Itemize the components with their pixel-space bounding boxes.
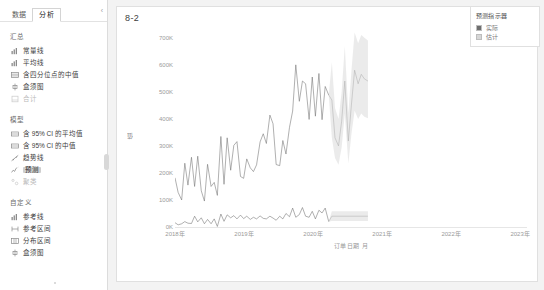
forecast-confidence-band	[329, 32, 368, 164]
x-axis-ticks: 2018年2019年2020年2021年2022年2023年	[175, 229, 527, 241]
sidebar-item-label: 常量线	[23, 48, 44, 55]
x-tick-label: 2019年	[234, 229, 253, 238]
group-title-summarize: 汇总	[0, 31, 107, 45]
sidebar-item-label: 分布区间	[23, 238, 51, 245]
sidebar-item-label: 含 95% CI 的平均值	[23, 131, 83, 138]
sidebar-item-median-with-95ci[interactable]: 含 95% CI 的中值	[0, 140, 107, 152]
sidebar-item-trend-line[interactable]: 趋势线	[0, 152, 107, 164]
sidebar-item-average-with-95ci[interactable]: 含 95% CI 的平均值	[0, 128, 107, 140]
sidebar-item-label: 参考区间	[23, 226, 51, 233]
group-title-model: 模型	[0, 114, 107, 128]
legend-title: 预测指示器	[476, 11, 534, 20]
boxplot-icon	[11, 249, 19, 257]
y-axis-ticks: 0K100K200K300K400K500K600K700K	[133, 27, 173, 227]
legend-label: 估计	[486, 34, 498, 40]
x-tick-label: 2020年	[303, 229, 322, 238]
trendline-icon	[11, 154, 19, 162]
sidebar-item-label: 含 95% CI 的中值	[23, 143, 76, 150]
sidebar-item-median-quartiles[interactable]: 含四分位点的中值	[0, 69, 107, 81]
sidebar-group-model: 模型 含 95% CI 的平均值 含 95% CI 的中值 趋势线	[0, 114, 107, 188]
x-axis-line	[175, 227, 527, 228]
sidebar-item-label: 合计	[23, 96, 37, 103]
sidebar-item-average-line[interactable]: 平均线	[0, 57, 107, 69]
y-tick-label: 400K	[159, 116, 173, 122]
cluster-icon	[11, 178, 19, 186]
plot-wrap: 值 0K100K200K300K400K500K600K700K 2018年20…	[117, 27, 537, 281]
sidebar-item-label: 平均线	[23, 60, 44, 67]
bar-chart-icon	[11, 47, 19, 55]
reference-line-icon	[11, 213, 19, 221]
distribution-band-icon	[11, 237, 19, 245]
reference-band-icon	[11, 225, 19, 233]
chevron-left-icon[interactable]: ‹	[101, 7, 103, 14]
tab-analytics[interactable]: 分析	[32, 8, 60, 22]
legend-swatch	[476, 25, 482, 31]
actual-line	[175, 208, 329, 227]
y-tick-label: 500K	[159, 89, 173, 95]
sidebar-group-custom: 自定义 参考线 参考区间 分布区间	[0, 197, 107, 259]
x-axis-title: 订单日期 月	[175, 241, 527, 250]
sidebar-item-distribution-band[interactable]: 分布区间	[0, 235, 107, 247]
legend-item-actual[interactable]: 实际	[476, 23, 534, 32]
y-tick-label: 700K	[159, 35, 173, 41]
chart-card: 8-2 值 0K100K200K300K400K500K600K700K 201…	[116, 6, 538, 282]
tab-data[interactable]: 数据	[6, 9, 32, 21]
sidebar-item-totals[interactable]: 合计	[0, 93, 107, 105]
sidebar-item-reference-line[interactable]: 参考线	[0, 211, 107, 223]
sidebar-item-label: 盒须图	[23, 250, 44, 257]
bar-chart-icon	[11, 59, 19, 67]
legend-forecast-indicator: 预测指示器 实际 估计	[470, 6, 540, 47]
sidebar-item-label: 预测	[23, 167, 41, 174]
actual-line	[175, 65, 329, 201]
x-tick-label: 2023年	[510, 229, 529, 238]
sidebar-item-cluster[interactable]: 聚类	[0, 176, 107, 188]
sidebar-group-summarize: 汇总 常量线 平均线 含四分位点的中值	[0, 31, 107, 105]
tableau-analytics-window: 数据 分析 ‹ 汇总 常量线 平均线	[0, 0, 544, 290]
sidebar-item-label: 聚类	[23, 179, 37, 186]
band-icon	[11, 130, 19, 138]
y-tick-label: 100K	[159, 197, 173, 203]
totals-icon	[11, 95, 19, 103]
group-title-custom: 自定义	[0, 197, 107, 211]
analytics-sidebar: 数据 分析 ‹ 汇总 常量线 平均线	[0, 0, 108, 290]
sidebar-item-label: 盒须图	[23, 84, 44, 91]
sidebar-item-label: 趋势线	[23, 155, 44, 162]
x-tick-label: 2022年	[441, 229, 460, 238]
legend-item-estimate[interactable]: 估计	[476, 32, 534, 41]
x-tick-label: 2018年	[165, 229, 184, 238]
sidebar-item-reference-band[interactable]: 参考区间	[0, 223, 107, 235]
sidebar-footer-dot	[54, 282, 56, 284]
x-tick-label: 2021年	[372, 229, 391, 238]
panel-resize-handle[interactable]	[104, 154, 109, 170]
sidebar-item-box-plot[interactable]: 盒须图	[0, 81, 107, 93]
y-tick-label: 300K	[159, 143, 173, 149]
band-icon	[11, 142, 19, 150]
y-tick-label: 200K	[159, 170, 173, 176]
legend-label: 实际	[486, 25, 498, 31]
chart-plot[interactable]	[175, 27, 375, 227]
boxplot-icon	[11, 83, 19, 91]
sidebar-item-forecast[interactable]: 预测	[0, 164, 107, 176]
sidebar-item-constant-line[interactable]: 常量线	[0, 45, 107, 57]
sidebar-tabs: 数据 分析 ‹	[0, 0, 107, 22]
sidebar-item-label: 参考线	[23, 214, 44, 221]
table-icon	[11, 71, 19, 79]
chart-title: 8-2	[125, 13, 139, 23]
sidebar-item-box-plot-custom[interactable]: 盒须图	[0, 247, 107, 259]
y-tick-label: 600K	[159, 62, 173, 68]
sidebar-item-label: 含四分位点的中值	[23, 72, 79, 79]
legend-swatch	[476, 34, 482, 40]
forecast-icon	[11, 166, 19, 174]
worksheet-area: 8-2 值 0K100K200K300K400K500K600K700K 201…	[108, 0, 544, 290]
